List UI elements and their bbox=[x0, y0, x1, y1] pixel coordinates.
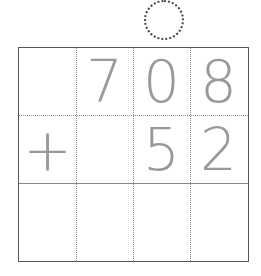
cell-r1-c4: 8 bbox=[190, 48, 247, 116]
cell-r2-c3: 5 bbox=[133, 116, 190, 184]
cell-r1-c2: 7 bbox=[76, 48, 133, 116]
cell-r1-c1 bbox=[19, 48, 76, 116]
plus-sign: + bbox=[19, 116, 76, 184]
cell-r2-c2 bbox=[76, 116, 133, 184]
answer-cell-1[interactable] bbox=[19, 184, 76, 261]
carry-circle[interactable] bbox=[144, 0, 184, 40]
answer-cell-2[interactable] bbox=[76, 184, 133, 261]
answer-cell-4[interactable] bbox=[190, 184, 247, 261]
cell-r2-c4: 2 bbox=[190, 116, 247, 184]
addition-grid: 7 0 8 + 5 2 bbox=[18, 47, 249, 262]
answer-cell-3[interactable] bbox=[133, 184, 190, 261]
cell-r1-c3: 0 bbox=[133, 48, 190, 116]
